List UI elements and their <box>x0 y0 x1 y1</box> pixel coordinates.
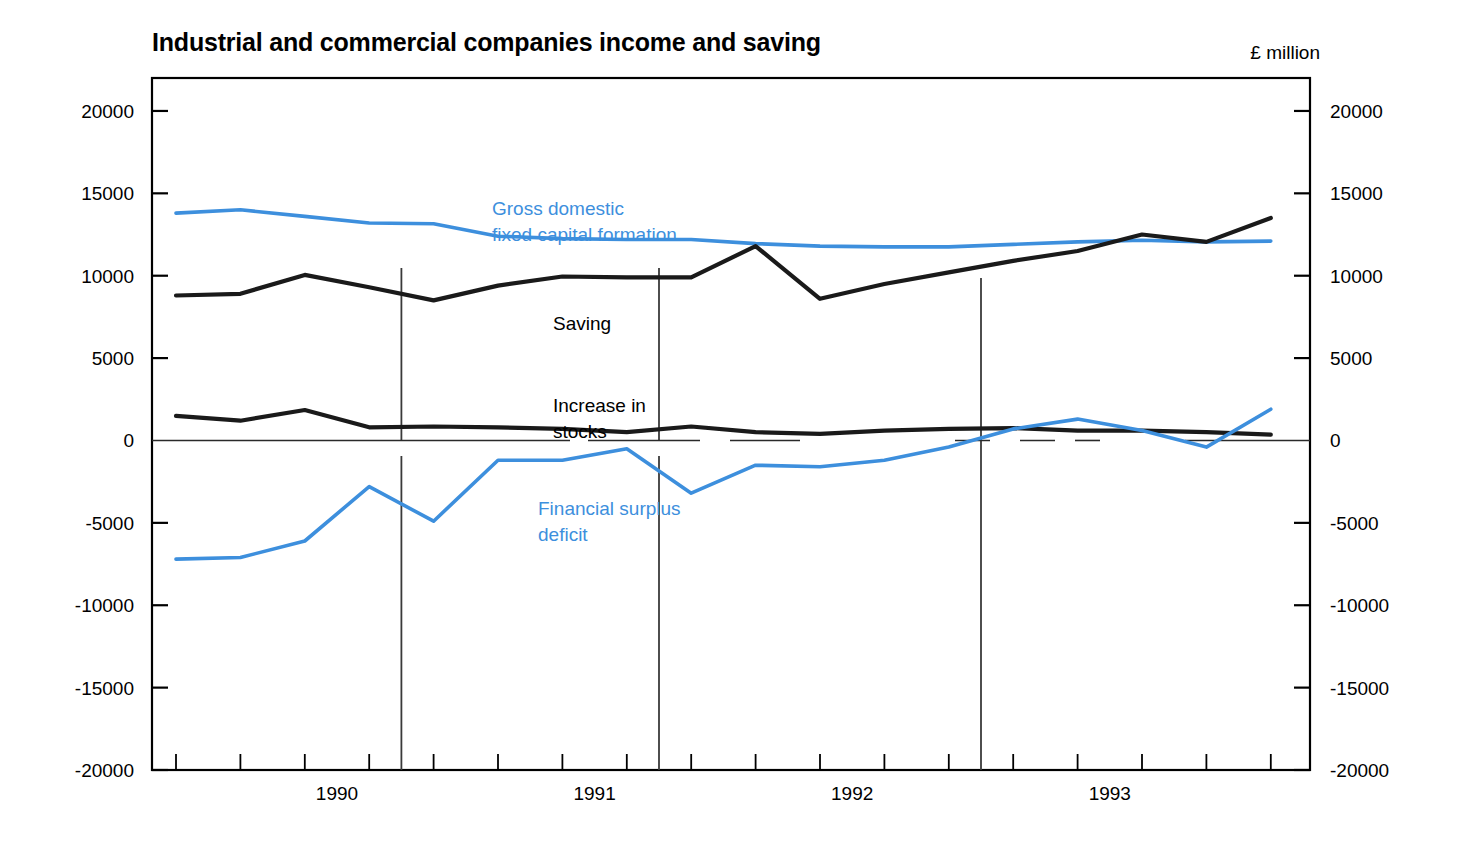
series-label-saving: Saving <box>553 313 611 334</box>
x-axis-year-label: 1991 <box>573 783 615 804</box>
y-axis-tick-label-left: 10000 <box>81 266 134 287</box>
series-label-gross-domestic-fixed-capital-formation: Gross domesticfixed capital formation <box>492 198 677 245</box>
chart-figure: Industrial and commercial companies inco… <box>0 0 1472 857</box>
series-line <box>176 410 1271 435</box>
y-axis-tick-label-right: -5000 <box>1330 513 1379 534</box>
y-axis-tick-label-left: 5000 <box>92 348 134 369</box>
x-axis-year-label: 1990 <box>316 783 358 804</box>
y-axis-tick-label-left: 0 <box>123 430 134 451</box>
x-axis-ticks <box>176 754 1271 770</box>
y-axis-tick-label-left: 15000 <box>81 183 134 204</box>
y-axis-tick-label-right: 5000 <box>1330 348 1372 369</box>
y-axis-tick-label-left: -15000 <box>75 678 134 699</box>
y-axis-tick-label-right: -15000 <box>1330 678 1389 699</box>
series-annotations: Gross domesticfixed capital formationSav… <box>492 198 681 545</box>
x-axis-labels: 1990199119921993 <box>316 783 1131 804</box>
y-axis-tick-label-right: -10000 <box>1330 595 1389 616</box>
chart-plot-area: 20000150001000050000-5000-10000-15000-20… <box>0 0 1472 857</box>
y-axis-tick-label-right: -20000 <box>1330 760 1389 781</box>
y-axis-tick-label-right: 20000 <box>1330 101 1383 122</box>
series-line <box>176 210 1271 247</box>
y-axis-tick-label-left: -5000 <box>85 513 134 534</box>
y-axis-tick-label-left: -20000 <box>75 760 134 781</box>
y-axis-right-labels: 20000150001000050000-5000-10000-15000-20… <box>1330 101 1389 781</box>
y-axis-tick-label-right: 10000 <box>1330 266 1383 287</box>
x-axis-year-label: 1993 <box>1089 783 1131 804</box>
plot-frame <box>152 78 1310 770</box>
series-line <box>176 218 1271 300</box>
y-axis-tick-label-right: 15000 <box>1330 183 1383 204</box>
x-axis-year-label: 1992 <box>831 783 873 804</box>
y-axis-tick-label-left: -10000 <box>75 595 134 616</box>
series-label-increase-in-stocks: Increase instocks <box>553 395 646 442</box>
y-axis-tick-label-left: 20000 <box>81 101 134 122</box>
y-axis-left-labels: 20000150001000050000-5000-10000-15000-20… <box>75 101 134 781</box>
series-lines <box>176 210 1271 559</box>
y-axis-tick-label-right: 0 <box>1330 430 1341 451</box>
year-divider-lines <box>401 268 981 770</box>
